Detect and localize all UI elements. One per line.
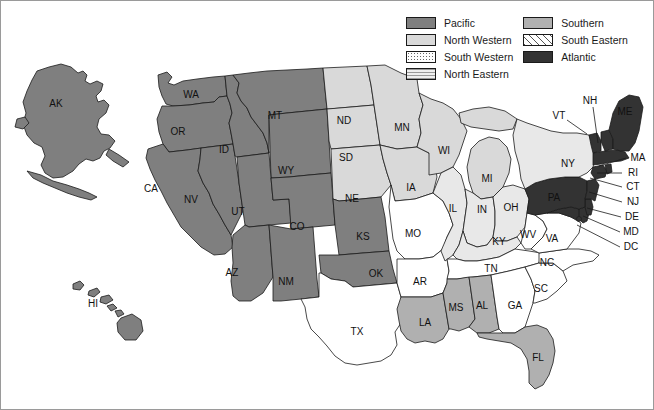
state-label-WY: WY [278, 165, 294, 176]
state-label-ID: ID [219, 144, 229, 155]
legend-label-southern: Southern [561, 17, 604, 29]
legend-item-north-western[interactable]: North Western [406, 32, 513, 47]
callout-line-DC [577, 225, 620, 247]
legend-swatch-south-eastern [523, 34, 553, 46]
map-figure: AKHIWAORCANVIDMTWYUTCOAZNMNDSDNEKSOKTXMN… [0, 0, 654, 410]
state-label-WA: WA [183, 89, 199, 100]
state-IN[interactable] [463, 189, 495, 247]
state-label-UT: UT [231, 206, 244, 217]
state-label-IL: IL [449, 203, 458, 214]
state-label-KY: KY [492, 236, 506, 247]
callout-label-DE: DE [625, 211, 639, 222]
state-label-WV: WV [520, 229, 536, 240]
callout-label-group: MARICTNJDEMDDC [623, 152, 646, 252]
state-label-NV: NV [184, 194, 198, 205]
state-label-VA: VA [546, 233, 559, 244]
state-label-CO: CO [290, 221, 305, 232]
legend-column-left: PacificNorth WesternSouth WesternNorth E… [406, 15, 513, 85]
state-label-AZ: AZ [226, 267, 239, 278]
state-label-FL: FL [532, 352, 544, 363]
state-KS[interactable] [333, 197, 389, 255]
legend-item-north-eastern[interactable]: North Eastern [406, 66, 513, 81]
state-AK[interactable] [15, 64, 129, 200]
state-label-MT: MT [268, 110, 282, 121]
legend-item-south-eastern[interactable]: South Eastern [523, 32, 628, 47]
state-NJ[interactable] [585, 179, 599, 201]
state-label-NE: NE [345, 193, 359, 204]
state-AZ[interactable] [231, 225, 273, 301]
legend-swatch-north-western [406, 34, 436, 46]
state-label-VT: VT [553, 110, 566, 121]
callout-line-MD [583, 216, 620, 232]
state-label-IA: IA [406, 182, 416, 193]
callout-line-DE [587, 208, 621, 217]
legend-swatch-atlantic [523, 51, 553, 63]
state-label-SC: SC [534, 283, 548, 294]
state-label-AK: AK [49, 98, 63, 109]
state-label-TN: TN [484, 263, 497, 274]
legend-label-south-eastern: South Eastern [561, 34, 628, 46]
state-label-NH: NH [583, 95, 597, 106]
legend-swatch-south-western [406, 51, 436, 63]
callout-label-DC: DC [624, 241, 638, 252]
legend-item-atlantic[interactable]: Atlantic [523, 49, 628, 64]
state-DE[interactable] [585, 199, 593, 215]
state-NM[interactable] [269, 225, 319, 301]
state-SD[interactable] [327, 105, 380, 149]
state-label-ME: ME [618, 106, 633, 117]
legend-item-southern[interactable]: Southern [523, 15, 628, 30]
legend: PacificNorth WesternSouth WesternNorth E… [406, 15, 641, 85]
callout-label-NJ: NJ [627, 196, 639, 207]
state-ME[interactable] [609, 95, 643, 151]
state-label-NM: NM [278, 276, 294, 287]
callout-line-VT [567, 120, 587, 134]
legend-item-pacific[interactable]: Pacific [406, 15, 513, 30]
state-label-PA: PA [548, 192, 561, 203]
state-label-WI: WI [438, 145, 450, 156]
legend-swatch-north-eastern [406, 68, 436, 80]
state-label-TX: TX [351, 326, 364, 337]
state-label-KS: KS [356, 231, 370, 242]
state-label-GA: GA [508, 300, 523, 311]
state-label-OK: OK [369, 268, 384, 279]
state-label-MO: MO [405, 228, 421, 239]
legend-swatch-southern [523, 17, 553, 29]
state-HI[interactable] [73, 281, 143, 340]
state-label-MS: MS [449, 302, 464, 313]
state-MI[interactable] [459, 107, 517, 199]
state-label-MN: MN [394, 122, 410, 133]
state-label-SD: SD [339, 152, 353, 163]
state-label-MI: MI [481, 173, 492, 184]
callout-label-CT: CT [626, 181, 639, 192]
state-CT[interactable] [591, 165, 607, 179]
state-label-IN: IN [477, 204, 487, 215]
state-label-ND: ND [337, 115, 351, 126]
state-label-AL: AL [476, 300, 489, 311]
legend-item-south-western[interactable]: South Western [406, 49, 513, 64]
state-label-LA: LA [419, 317, 432, 328]
legend-column-right: SouthernSouth EasternAtlantic [523, 15, 628, 85]
state-label-HI: HI [88, 298, 98, 309]
legend-swatch-pacific [406, 17, 436, 29]
state-label-NY: NY [561, 158, 575, 169]
callout-label-MA: MA [631, 152, 646, 163]
state-label-OR: OR [171, 126, 186, 137]
legend-label-south-western: South Western [444, 51, 513, 63]
legend-label-north-eastern: North Eastern [444, 68, 509, 80]
state-label-NC: NC [540, 257, 554, 268]
state-DC[interactable] [577, 217, 582, 222]
callout-label-MD: MD [623, 226, 639, 237]
callout-label-RI: RI [628, 167, 638, 178]
legend-label-pacific: Pacific [444, 17, 475, 29]
state-label-CA: CA [144, 183, 158, 194]
legend-label-north-western: North Western [444, 34, 512, 46]
state-label-OH: OH [504, 202, 519, 213]
state-ND[interactable] [323, 66, 374, 109]
state-label-AR: AR [413, 276, 427, 287]
legend-label-atlantic: Atlantic [561, 51, 595, 63]
